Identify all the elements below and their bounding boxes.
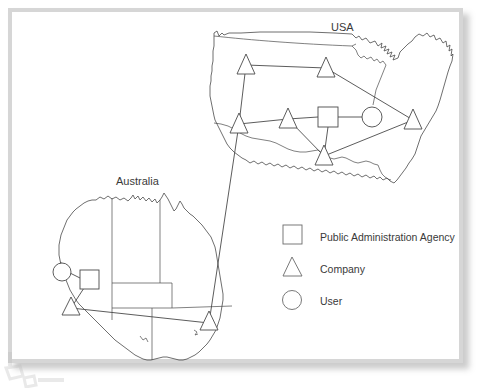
edge-au-w-au-se (71, 308, 209, 323)
node-triangle-au-se[interactable] (200, 311, 218, 330)
node-circle-us-user[interactable] (362, 107, 382, 127)
node-triangle-us-s[interactable] (315, 145, 333, 165)
network-nodes (53, 54, 422, 330)
node-circle-au-user[interactable] (53, 263, 71, 281)
node-triangle-us-nw[interactable] (237, 54, 255, 74)
australia-state-borders (112, 198, 232, 360)
node-triangle-us-nc[interactable] (317, 57, 335, 77)
network-map-canvas (0, 0, 487, 389)
node-triangle-us-c[interactable] (279, 108, 297, 128)
legend-triangle-icon (283, 257, 302, 276)
network-edges (70, 65, 413, 323)
legend-label-company: Company (320, 263, 365, 275)
map-label-usa: USA (331, 21, 354, 33)
edge-us-nw-us-nc (246, 65, 326, 68)
legend-circle-icon (283, 291, 302, 310)
edge-transpacific (209, 124, 239, 323)
diagram-root: USA Australia Public Administration Agen… (0, 0, 487, 389)
node-triangle-au-w[interactable] (62, 297, 80, 315)
legend-square-icon (283, 225, 302, 244)
map-label-australia: Australia (116, 175, 159, 187)
node-square-us-agency[interactable] (318, 107, 338, 127)
legend-label-user: User (320, 295, 342, 307)
node-square-au-agency[interactable] (80, 270, 99, 289)
legend-label-public-administration-agency: Public Administration Agency (320, 231, 455, 243)
legend-symbols (283, 225, 303, 310)
node-triangle-us-e[interactable] (404, 109, 422, 129)
